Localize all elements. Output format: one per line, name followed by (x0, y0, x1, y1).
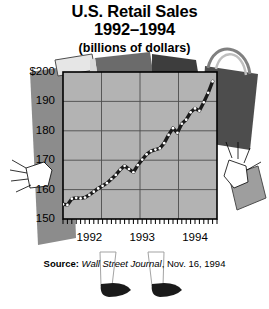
x-tick-label: 1993 (119, 231, 165, 243)
y-tick-label: 180 (15, 124, 55, 136)
data-point-marker (132, 171, 135, 174)
data-point-marker (198, 109, 201, 112)
source-publication: Wall Street Journal (82, 258, 162, 269)
title-line-1: U.S. Retail Sales (0, 2, 269, 20)
y-tick-label: $200 (9, 65, 55, 77)
data-point-marker (106, 182, 109, 185)
data-point-marker (119, 168, 122, 171)
data-point-marker (145, 153, 148, 156)
chart-title-block: U.S. Retail Sales 1992–1994 (billions of… (0, 2, 269, 57)
data-point-marker (141, 158, 144, 161)
x-tick-label: 1994 (172, 231, 218, 243)
x-tick-label: 1992 (66, 231, 112, 243)
data-point-marker (202, 101, 205, 104)
source-note: Source: Wall Street Journal, Nov. 16, 19… (0, 258, 269, 269)
data-point-marker (163, 142, 166, 145)
title-line-3: (billions of dollars) (0, 39, 269, 57)
data-point-marker (70, 197, 73, 200)
data-point-marker (185, 118, 188, 121)
data-point-marker (84, 196, 87, 199)
data-point-marker (189, 111, 192, 114)
data-point-marker (207, 92, 210, 95)
source-label: Source: (44, 258, 79, 269)
data-point-marker (172, 127, 175, 130)
data-point-marker (128, 168, 131, 171)
data-point-marker (176, 132, 179, 135)
data-point-marker (88, 194, 91, 197)
data-point-marker (114, 174, 117, 177)
data-point-marker (194, 107, 197, 110)
title-line-2: 1992–1994 (0, 20, 269, 39)
data-point-marker (92, 190, 95, 193)
data-point-marker (66, 204, 69, 207)
data-point-marker (110, 178, 113, 181)
y-tick-label: 170 (15, 153, 55, 165)
y-tick-label: 160 (15, 183, 55, 195)
data-point-marker (75, 196, 78, 199)
data-point-marker (97, 187, 100, 190)
data-point-marker (211, 80, 214, 83)
data-point-marker (154, 148, 157, 151)
data-point-marker (101, 184, 104, 187)
data-point-marker (158, 147, 161, 150)
data-point-marker (180, 122, 183, 125)
y-tick-label: 150 (15, 212, 55, 224)
data-point-marker (150, 150, 153, 153)
data-point-marker (123, 164, 126, 167)
data-point-marker (79, 197, 82, 200)
y-tick-label: 190 (15, 94, 55, 106)
data-point-marker (167, 134, 170, 137)
source-date: , Nov. 16, 1994 (162, 258, 226, 269)
data-point-marker (136, 164, 139, 167)
